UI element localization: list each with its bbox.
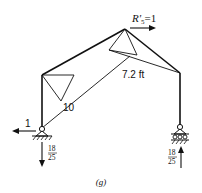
left-vertical-numerator: 18 — [48, 144, 56, 153]
lower-line-to-right — [109, 50, 180, 73]
left-triangle — [42, 75, 74, 101]
left-horizontal-arrow — [12, 128, 36, 134]
arrow-down-icon — [39, 160, 45, 167]
top-triangle — [109, 29, 137, 55]
left-vertical-arrow — [39, 142, 45, 167]
arrow-right-icon — [149, 25, 156, 31]
arrow-up-icon — [178, 146, 184, 153]
right-vertical-arrow — [178, 146, 184, 168]
reaction-top-label: R'5=1 — [131, 12, 156, 26]
left-pin-support — [32, 126, 52, 140]
left-horizontal-label: 1 — [25, 118, 31, 129]
left-vertical-denominator: 25 — [48, 153, 56, 162]
arrow-left-icon — [12, 128, 19, 134]
right-roller-support — [171, 124, 189, 144]
length-label: 7.2 ft — [122, 69, 144, 80]
construction-lines — [42, 29, 180, 128]
right-vertical-numerator: 18 — [168, 148, 176, 157]
right-rafter — [125, 29, 180, 73]
frame-diagram: R'5=1 7.2 ft 10 1 18 25 — [0, 0, 202, 193]
right-vertical-denominator: 25 — [168, 157, 176, 166]
figure-caption: (g) — [96, 177, 107, 187]
left-rafter — [42, 29, 125, 75]
left-triangle-value: 10 — [63, 102, 75, 113]
